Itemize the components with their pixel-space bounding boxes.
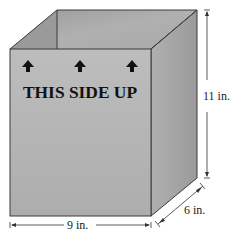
depth-label: 6 in. <box>184 203 205 217</box>
this-side-up-label: THIS SIDE UP <box>23 83 137 102</box>
width-label: 9 in. <box>67 218 88 232</box>
height-label: 11 in. <box>203 89 230 103</box>
box-diagram: THIS SIDE UP 11 in. 9 in. <box>0 0 235 236</box>
box-front-face <box>10 49 151 216</box>
